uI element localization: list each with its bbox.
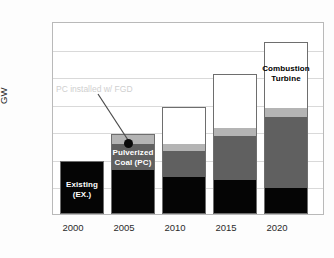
x-axis-tick-2015: 2015 <box>198 222 254 233</box>
segment-pulverized-coal-2020 <box>265 117 307 189</box>
label-pulverized-coal: Pulverized Coal (PC) <box>112 148 154 167</box>
label-existing: Existing (EX.) <box>61 180 103 199</box>
segment-existing-2010 <box>163 177 205 213</box>
bar-2010[interactable] <box>162 107 206 214</box>
bar-2020[interactable]: Combustion Turbine <box>264 42 308 214</box>
chart-figure: GW 70 60 50 40 30 20 10 0 Existing (EX.) <box>0 0 334 258</box>
x-axis-tick-2010: 2010 <box>147 222 203 233</box>
bar-2005[interactable]: Pulverized Coal (PC) <box>111 134 155 214</box>
segment-existing-2015 <box>214 180 256 213</box>
segment-pulverized-coal-2010 <box>163 151 205 177</box>
segment-existing-2020 <box>265 188 307 213</box>
segment-existing-2005 <box>112 170 154 213</box>
x-axis-tick-2020: 2020 <box>249 222 305 233</box>
label-combustion-turbine: Combustion Turbine <box>257 64 315 83</box>
bar-2000[interactable]: Existing (EX.) <box>60 161 104 214</box>
annotation-marker-dot <box>124 139 133 148</box>
segment-pulverized-coal-2015 <box>214 136 256 180</box>
y-axis-title: GW <box>0 88 9 104</box>
segment-fgd-2020 <box>265 108 307 116</box>
x-axis-tick-2005: 2005 <box>96 222 152 233</box>
segment-combustion-turbine-2010 <box>163 108 205 144</box>
plot-area: Existing (EX.) Pulverized Coal (PC) <box>52 22 324 215</box>
annotation-leader-line <box>96 92 142 144</box>
segment-fgd-2015 <box>214 128 256 136</box>
bar-2015[interactable] <box>213 74 257 214</box>
x-axis-tick-2000: 2000 <box>45 222 101 233</box>
segment-combustion-turbine-2015 <box>214 75 256 127</box>
segment-fgd-2010 <box>163 144 205 151</box>
